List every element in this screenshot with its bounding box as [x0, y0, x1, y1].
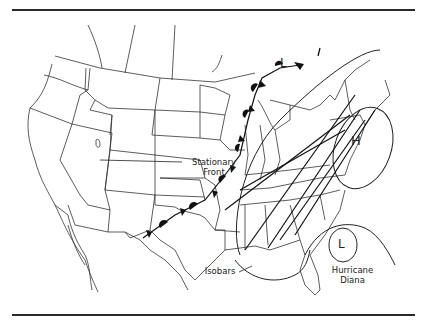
hurricane-label-line1: Hurricane	[325, 265, 380, 275]
hurricane-label: Hurricane Diana	[325, 265, 380, 285]
stationary-front-label-line1: Stationary	[183, 157, 245, 167]
stationary-front	[143, 61, 304, 238]
hurricane-label-line2: Diana	[325, 275, 380, 285]
front-fragment	[318, 48, 320, 56]
stationary-front-leader	[100, 160, 182, 162]
isobars-label: Isobars	[200, 266, 240, 276]
low-pressure-symbol-north: L	[280, 56, 287, 70]
hurricane-low-symbol: L	[338, 237, 345, 251]
high-pressure-symbol: H	[351, 133, 361, 148]
great-salt-lake	[96, 139, 100, 147]
stationary-front-label: Stationary Front	[183, 157, 245, 177]
stationary-front-label-line2: Front	[183, 167, 245, 177]
